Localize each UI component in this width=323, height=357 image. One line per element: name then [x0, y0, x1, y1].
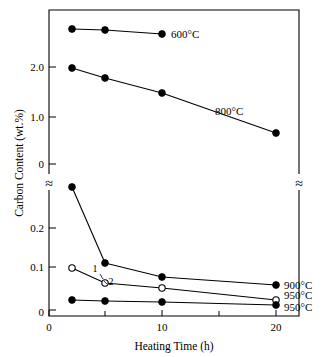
x-tick-label-0: 0: [46, 321, 52, 333]
data-point: [69, 26, 76, 33]
y-tick-label-lower-0: 0: [39, 306, 45, 318]
series-label-800c: 800°C: [215, 105, 243, 117]
y-tick-label-lower-2: 0.2: [30, 222, 44, 234]
data-point: [159, 285, 165, 291]
axis-break-left: ≈: [45, 174, 54, 191]
series-label-950c-open: 950°C: [284, 289, 312, 301]
y-axis-upper-ticks: [49, 67, 56, 164]
data-point: [102, 260, 109, 267]
series-600c-line: [72, 29, 162, 34]
data-point: [69, 65, 76, 72]
series-600c: 600°C: [69, 26, 200, 40]
annotation-1-label: 1: [93, 263, 98, 274]
x-tick-label-20: 20: [271, 321, 283, 333]
plot-frame: [49, 10, 299, 316]
data-point: [69, 184, 76, 191]
data-point: [273, 282, 280, 289]
axis-break-right: ≈: [295, 174, 304, 191]
y-tick-label-upper-2: 2.0: [30, 61, 44, 73]
data-point: [102, 75, 109, 82]
data-point: [102, 280, 108, 286]
y-tick-label-upper-0: 0: [39, 158, 45, 170]
series-900c-line: [72, 187, 276, 285]
x-axis-title: Heating Time (h): [134, 340, 213, 353]
y-axis-lower-ticks: [49, 228, 56, 310]
data-point: [69, 265, 75, 271]
data-point: [273, 302, 280, 309]
series-label-950c-filled: 950°C: [284, 301, 312, 313]
data-point: [159, 90, 166, 97]
chart-figure: 2.0 1.0 0 0.2 0.1 0 ≈ ≈: [0, 0, 323, 357]
carbon-content-line-chart: 2.0 1.0 0 0.2 0.1 0 ≈ ≈: [0, 0, 323, 357]
series-900c: 900°C: [69, 184, 313, 291]
data-point: [159, 274, 166, 281]
annotation-1: 1: [93, 263, 104, 279]
y-axis-upper-tick-labels: 2.0 1.0 0: [30, 61, 44, 170]
x-tick-label-10: 10: [157, 321, 169, 333]
series-800c: 800°C: [69, 65, 280, 137]
data-point: [273, 130, 280, 137]
axis-break-symbol-left: ≈: [45, 176, 53, 191]
data-point: [159, 31, 166, 38]
data-point: [102, 298, 109, 305]
series-label-600c: 600°C: [171, 28, 199, 40]
axis-break-symbol-right: ≈: [295, 176, 303, 191]
x-axis-tick-labels: 0 10 20: [46, 321, 282, 333]
y-tick-label-lower-1: 0.1: [30, 261, 44, 273]
x-axis-ticks: [49, 310, 276, 316]
data-point: [69, 297, 76, 304]
y-tick-label-upper-1: 1.0: [30, 111, 44, 123]
data-point: [159, 299, 166, 306]
annotation-2-label: 2: [109, 276, 114, 287]
data-point: [102, 27, 109, 34]
y-axis-lower-tick-labels: 0.2 0.1 0: [30, 222, 44, 318]
y-axis-title: Carbon Content (wt.%): [13, 109, 26, 217]
